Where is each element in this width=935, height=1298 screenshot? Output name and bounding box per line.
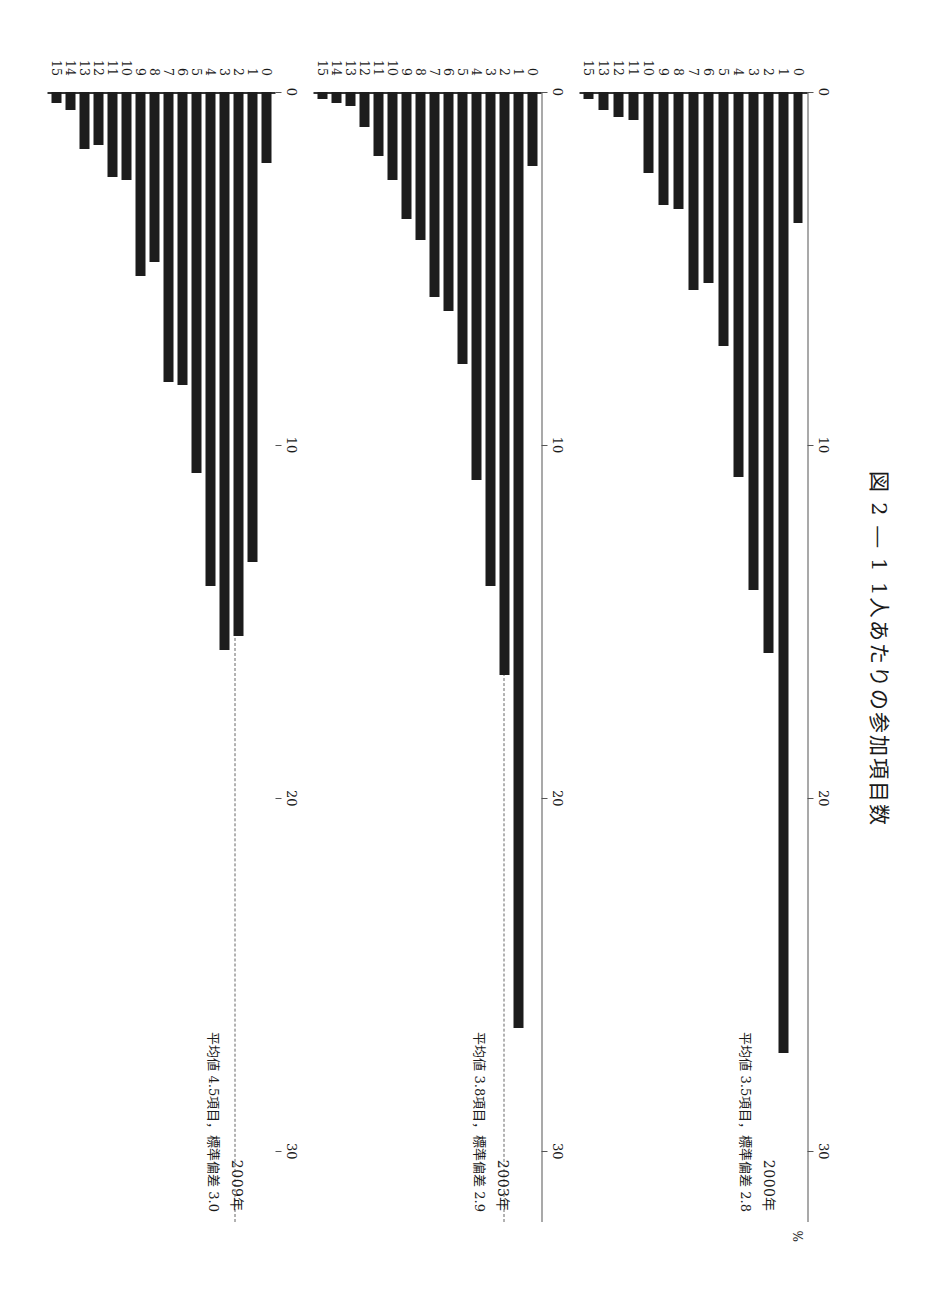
category-label: 3 [217, 68, 232, 76]
bar [527, 92, 536, 166]
bar [331, 92, 340, 103]
chart-panel-2009: 0102030 0123456789101112131415 2009年 平均値… [47, 0, 305, 1298]
bar [613, 92, 623, 117]
bar [261, 92, 270, 163]
bar-row: 12 [357, 92, 371, 1222]
bar-row: 6 [175, 92, 189, 1222]
bar-row: 11 [105, 92, 119, 1222]
axis-tick [807, 92, 813, 93]
bar [373, 92, 382, 156]
bar [673, 92, 683, 209]
bar-row: 5 [715, 92, 730, 1222]
category-label: 10 [119, 60, 134, 76]
axis-tick [275, 1151, 281, 1152]
category-label: 5 [455, 68, 470, 76]
category-label: 1 [511, 68, 526, 76]
axis-tick [807, 445, 813, 446]
x-axis-2000: 0102030 % [807, 92, 837, 1222]
category-label: 10 [641, 60, 656, 76]
axis-tick-label: 30 [549, 1143, 564, 1160]
category-label: 14 [329, 60, 344, 76]
bar-row: 6 [441, 92, 455, 1222]
bar-row: 2 [760, 92, 775, 1222]
bar-row: 15 [49, 92, 63, 1222]
bar-row: 5 [455, 92, 469, 1222]
x-axis-2009: 0102030 [275, 92, 305, 1222]
bar [317, 92, 326, 99]
axis-tick-label: 20 [815, 790, 830, 807]
category-label: 11 [371, 60, 386, 76]
bar [443, 92, 452, 311]
bar-row: 8 [147, 92, 161, 1222]
category-label: 13 [343, 60, 358, 76]
category-label: 1 [245, 68, 260, 76]
bar [135, 92, 144, 276]
stats-annotation-2009: 平均値 4.5項目，標準偏差 3.0 [204, 1032, 223, 1212]
category-label: 2 [231, 68, 246, 76]
axis-tick [275, 445, 281, 446]
bar [233, 92, 242, 636]
bar [429, 92, 438, 297]
bar [149, 92, 158, 262]
bar [359, 92, 368, 127]
bar-row: 14 [63, 92, 77, 1222]
bar-row: 1 [245, 92, 259, 1222]
category-label: 15 [581, 60, 596, 76]
bar-row: 1 [511, 92, 525, 1222]
chart-panel-2003: 0102030 0123456789101112131415 2003年 平均値… [313, 0, 571, 1298]
bar-row: 7 [161, 92, 175, 1222]
bar-row: 0 [525, 92, 539, 1222]
axis-tick [275, 798, 281, 799]
bar-row: 9 [399, 92, 413, 1222]
bar [387, 92, 396, 180]
category-label: 12 [357, 60, 372, 76]
bar-row: 1 [775, 92, 790, 1222]
category-label: 6 [700, 68, 715, 76]
bar [793, 92, 803, 223]
category-label: 7 [685, 68, 700, 76]
bar-row: 8 [413, 92, 427, 1222]
bar-row: 7 [686, 92, 701, 1222]
category-label: 9 [399, 68, 414, 76]
bar [163, 92, 172, 382]
bar [703, 92, 713, 283]
bar [219, 92, 228, 650]
bar [191, 92, 200, 473]
category-label: 12 [91, 60, 106, 76]
category-label: 15 [315, 60, 330, 76]
category-label: 8 [671, 68, 686, 76]
bar [121, 92, 130, 180]
category-label: 0 [259, 68, 274, 76]
bar-row: 9 [656, 92, 671, 1222]
bar [415, 92, 424, 240]
bar [51, 92, 60, 103]
bar-row: 15 [581, 92, 596, 1222]
bar-row: 13 [596, 92, 611, 1222]
year-label-2000: 2000年 [759, 1160, 779, 1212]
stats-annotation-2003: 平均値 3.8項目，標準偏差 2.9 [470, 1032, 489, 1212]
category-label: 3 [745, 68, 760, 76]
axis-tick-label: 10 [283, 437, 298, 454]
axis-tick-label: 30 [283, 1143, 298, 1160]
bar [733, 92, 743, 477]
bar [93, 92, 102, 145]
axis-tick-label: 20 [549, 790, 564, 807]
bar [763, 92, 773, 653]
bar-row: 10 [119, 92, 133, 1222]
axis-tick-label: 20 [283, 790, 298, 807]
axis-tick-label: 10 [549, 437, 564, 454]
axis-tick [541, 798, 547, 799]
year-label-2003: 2003年 [493, 1160, 513, 1212]
category-label: 4 [730, 68, 745, 76]
bar [205, 92, 214, 586]
bar [107, 92, 116, 177]
category-label: 7 [427, 68, 442, 76]
category-label: 10 [385, 60, 400, 76]
unit-label: % [789, 1231, 803, 1242]
category-label: 13 [596, 60, 611, 76]
bar [471, 92, 480, 480]
bar-row: 9 [133, 92, 147, 1222]
bar [79, 92, 88, 149]
category-label: 9 [656, 68, 671, 76]
category-label: 0 [790, 68, 805, 76]
